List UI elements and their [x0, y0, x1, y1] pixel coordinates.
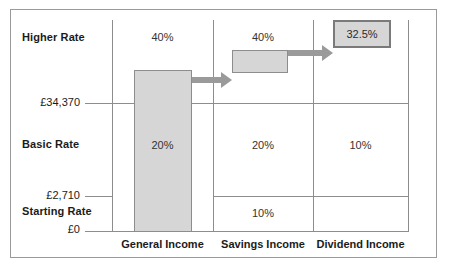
arrow-shaft: [192, 77, 221, 83]
rate-savings-basic: 20%: [213, 139, 313, 151]
arrow-general-to-savings: [192, 72, 232, 88]
column-caption-dividend: Dividend Income: [313, 238, 408, 250]
rate-general-higher: 40%: [112, 31, 213, 43]
dividend-higher-rate-box: 32.5%: [333, 20, 391, 48]
savings-higher-rate-box: [232, 50, 288, 73]
rate-savings-higher: 40%: [213, 31, 313, 43]
column-caption-savings: Savings Income: [213, 238, 313, 250]
column-divider-left: [112, 20, 113, 231]
band-label-higher: Higher Rate: [22, 31, 85, 43]
arrow-shaft: [288, 50, 322, 56]
arrow-head: [221, 72, 232, 88]
arrow-savings-to-dividend: [288, 45, 333, 61]
threshold-line-lower-savings: [213, 196, 409, 197]
column-edge-right: [408, 20, 409, 231]
rate-savings-starting: 10%: [213, 207, 313, 219]
column-caption-general: General Income: [112, 238, 213, 250]
rate-general-basic: 20%: [112, 139, 213, 151]
axis-label-lower-threshold: £2,710: [0, 189, 80, 201]
axis-label-upper-threshold: £34,370: [0, 96, 80, 108]
threshold-line-lower-tick: [85, 196, 113, 197]
rate-dividend-basic: 10%: [313, 139, 408, 151]
band-label-starting: Starting Rate: [22, 205, 92, 217]
axis-label-zero: £0: [0, 223, 80, 235]
tax-rate-diagram: Higher Rate Basic Rate Starting Rate £34…: [0, 0, 449, 277]
dividend-higher-rate-value: 32.5%: [335, 28, 389, 40]
band-label-basic: Basic Rate: [22, 138, 79, 150]
general-income-bar: [134, 70, 192, 232]
column-divider-middle: [213, 20, 214, 231]
arrow-head: [322, 45, 333, 61]
